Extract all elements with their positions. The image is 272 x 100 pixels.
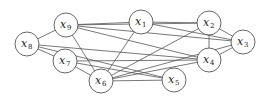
node-subscript: 2 (210, 22, 214, 30)
node-subscript: 4 (210, 59, 215, 67)
node-x3: x3 (231, 30, 255, 54)
node-label: x (60, 18, 67, 31)
node-subscript: 3 (244, 41, 248, 49)
node-label: x (168, 73, 175, 86)
node-label: x (59, 54, 66, 67)
node-x8: x8 (15, 32, 39, 56)
node-subscript: 8 (28, 43, 32, 51)
node-subscript: 5 (175, 79, 179, 87)
node-x7: x7 (53, 49, 77, 73)
graph-diagram: x1x2x3x4x5x6x7x8x9 (0, 0, 272, 100)
edge-x7-x4 (65, 60, 209, 61)
node-label: x (237, 35, 244, 48)
node-label: x (203, 53, 210, 66)
node-x5: x5 (162, 68, 186, 92)
node-label: x (95, 74, 102, 87)
node-subscript: 6 (102, 80, 107, 88)
node-x1: x1 (129, 10, 153, 34)
node-x6: x6 (89, 69, 113, 93)
node-subscript: 9 (67, 24, 71, 32)
node-x4: x4 (197, 48, 221, 72)
node-x2: x2 (197, 11, 221, 35)
node-label: x (203, 16, 210, 29)
node-subscript: 1 (142, 21, 146, 29)
node-label: x (135, 15, 142, 28)
node-subscript: 7 (66, 60, 70, 68)
node-label: x (21, 37, 28, 50)
node-x9: x9 (54, 13, 78, 37)
